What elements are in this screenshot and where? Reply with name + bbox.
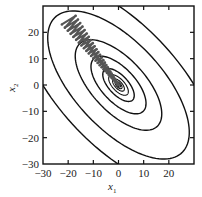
trajectory-point xyxy=(92,57,95,60)
trajectory-point xyxy=(79,22,82,25)
contour-chart: −30−20−1001020 −30−20−1001020 x1 x2 xyxy=(0,0,202,197)
x-tick-label: 0 xyxy=(116,167,122,179)
x-axis-ticks: −30−20−1001020 xyxy=(34,6,174,179)
x-tick-label: −20 xyxy=(60,167,78,179)
trajectory-point xyxy=(94,59,97,62)
trajectory-point xyxy=(83,47,86,50)
trajectory-point xyxy=(66,29,69,32)
x-tick-label: −10 xyxy=(85,167,103,179)
trajectory-point xyxy=(91,42,94,45)
trajectory-point xyxy=(90,39,93,42)
trajectory-point xyxy=(64,26,67,29)
trajectory-point xyxy=(99,54,102,57)
trajectory-point xyxy=(75,39,78,42)
descent-trajectory xyxy=(62,16,119,85)
trajectory-point xyxy=(83,29,86,32)
trajectory-point xyxy=(102,59,105,62)
trajectory-point xyxy=(87,52,90,55)
contour-ellipse xyxy=(20,0,202,188)
trajectory-point xyxy=(117,84,120,87)
y-tick-label: −30 xyxy=(22,158,40,170)
trajectory-point xyxy=(61,23,64,26)
trajectory-point xyxy=(100,56,103,59)
x-tick-label: 20 xyxy=(163,167,175,179)
trajectory-point xyxy=(90,55,93,58)
contour-lines xyxy=(20,0,202,188)
trajectory-point xyxy=(106,66,109,69)
optimization-path xyxy=(61,14,120,86)
trajectory-point xyxy=(77,41,80,44)
trajectory-point xyxy=(69,33,72,36)
y-tick-label: 0 xyxy=(34,79,40,91)
y-tick-label: 10 xyxy=(28,53,40,65)
trajectory-point xyxy=(95,48,98,51)
trajectory-point xyxy=(93,45,96,48)
trajectory-point xyxy=(72,36,75,39)
trajectory-point xyxy=(81,25,84,28)
x-tick-label: 10 xyxy=(138,167,150,179)
trajectory-point xyxy=(102,68,105,71)
y-tick-label: −20 xyxy=(22,132,40,144)
trajectory-point xyxy=(85,50,88,53)
trajectory-point xyxy=(105,64,108,67)
trajectory-point xyxy=(104,61,107,64)
trajectory-point xyxy=(85,32,88,35)
y-tick-label: −10 xyxy=(22,105,40,117)
trajectory-point xyxy=(98,64,101,67)
y-axis-label: x2 xyxy=(5,83,20,93)
trajectory-point xyxy=(88,36,91,39)
trajectory-point xyxy=(80,44,83,47)
trajectory-point xyxy=(96,62,99,65)
trajectory-point xyxy=(77,18,80,21)
y-tick-label: 20 xyxy=(28,26,40,38)
x-axis-label: x1 xyxy=(107,180,117,195)
trajectory-point xyxy=(100,66,103,69)
trajectory-point xyxy=(74,14,77,17)
trajectory-point xyxy=(97,51,100,54)
